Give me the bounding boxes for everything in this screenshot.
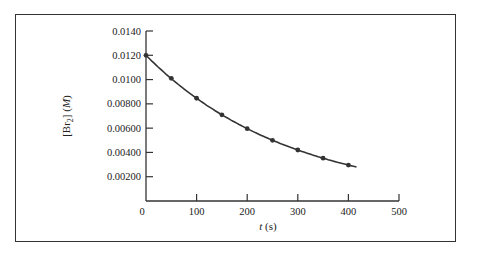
y-axis-title: [Br2] (M) <box>60 95 75 137</box>
series-line <box>146 55 357 167</box>
data-point <box>220 112 225 117</box>
y-tick-label: 0.0100 <box>112 74 141 85</box>
x-tick-label: 300 <box>290 206 306 217</box>
x-tick-label: 500 <box>391 206 407 217</box>
data-point <box>144 53 149 58</box>
data-point <box>194 96 199 101</box>
x-axis-ticks: 0100200300400500 <box>139 194 407 217</box>
x-tick-label: 200 <box>239 206 255 217</box>
y-tick-label: 0.00400 <box>107 147 141 158</box>
x-tick-label: 0 <box>139 206 144 217</box>
x-axis-title: t (s) <box>259 220 277 233</box>
data-point <box>245 126 250 131</box>
concentration-time-chart: 0.002000.004000.006000.008000.01000.0120… <box>0 0 482 253</box>
x-tick-label: 400 <box>341 206 357 217</box>
y-tick-label: 0.0140 <box>112 26 141 37</box>
x-tick-label: 100 <box>189 206 205 217</box>
data-point <box>169 76 174 81</box>
y-tick-label: 0.00800 <box>107 98 141 109</box>
data-point <box>346 163 351 168</box>
y-tick-label: 0.0120 <box>112 50 141 61</box>
data-point <box>295 148 300 153</box>
data-point <box>270 138 275 143</box>
y-tick-label: 0.00600 <box>107 123 141 134</box>
data-series <box>144 53 357 168</box>
data-point <box>321 156 326 161</box>
axes <box>146 31 399 201</box>
y-tick-label: 0.00200 <box>107 171 141 182</box>
